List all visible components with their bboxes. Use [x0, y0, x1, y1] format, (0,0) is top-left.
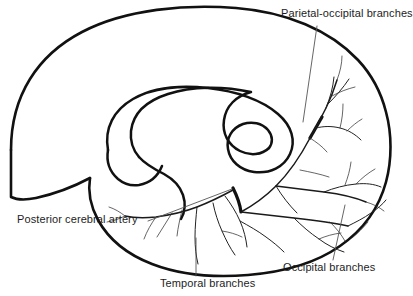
artery-branch-temp-2 — [213, 203, 235, 255]
artery-twig-temp-10 — [177, 210, 182, 236]
artery-twig-temp-8 — [222, 231, 242, 237]
label-occipital-branches: Occipital branches — [283, 262, 375, 273]
artery-temporal-stem — [125, 190, 233, 218]
artery-twig-occ-11 — [300, 170, 329, 177]
artery-twig-occ-3 — [345, 162, 351, 185]
artery-branch-po-5 — [316, 127, 361, 141]
brain-artery-diagram: Parietal-occipital branches Posterior ce… — [0, 0, 413, 296]
artery-branch-temp-3 — [225, 196, 247, 247]
artery-twig-po-3 — [332, 87, 355, 96]
label-parietal-occipital-branches: Parietal-occipital branches — [281, 8, 413, 19]
artery-branch-occ-9 — [276, 186, 297, 213]
artery-twig-occ-2 — [356, 169, 375, 184]
label-temporal-branches: Temporal branches — [160, 278, 255, 289]
artery-calcarine-stem — [276, 186, 366, 202]
artery-twig-po-4 — [337, 56, 342, 80]
cerebral-hemisphere-outline — [11, 7, 391, 276]
corpus-callosum-outline — [107, 87, 293, 172]
artery-branch-temp-9 — [240, 221, 284, 252]
leader-line-parietal-occipital — [303, 26, 317, 122]
artery-branch-occ-1 — [324, 184, 381, 192]
label-posterior-cerebral-artery: Posterior cerebral artery — [17, 214, 138, 225]
artery-branch-temp-1 — [195, 207, 198, 264]
brain-diagram-svg — [0, 0, 413, 296]
posterior-cerebral-artery-trunk — [233, 188, 241, 212]
leader-line-posterior-cerebral — [148, 189, 232, 221]
artery-twig-po-6 — [340, 104, 343, 128]
artery-twig-po-7 — [347, 119, 362, 131]
temporal-pole-notch-outline — [11, 150, 90, 199]
artery-twig-po-8 — [310, 138, 327, 152]
